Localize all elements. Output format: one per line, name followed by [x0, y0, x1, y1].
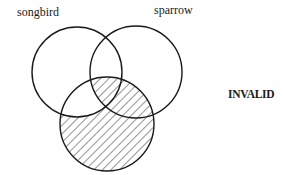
verdict-label: INVALID — [228, 87, 274, 101]
set-label-songbird: songbird — [17, 5, 59, 19]
set-label-sparrow: sparrow — [154, 3, 193, 17]
venn-diagram: songbird sparrow INVALID — [0, 0, 283, 175]
